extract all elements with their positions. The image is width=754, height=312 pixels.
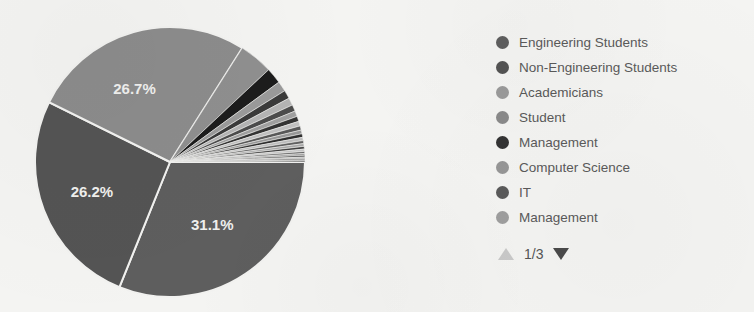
legend-item[interactable]: Computer Science — [496, 155, 746, 180]
pie-chart-svg[interactable]: 31.1%26.2%26.7% — [0, 0, 420, 312]
legend-swatch-icon — [496, 61, 509, 74]
legend-item[interactable]: IT — [496, 180, 746, 205]
legend-swatch-icon — [496, 111, 509, 124]
legend-swatch-icon — [496, 86, 509, 99]
legend-item[interactable]: Management — [496, 130, 746, 155]
legend-item[interactable]: Engineering Students — [496, 30, 746, 55]
legend-page-count: 1/3 — [524, 247, 543, 261]
pie-slice-percent-label: 31.1% — [191, 216, 234, 233]
legend-item-list[interactable]: Engineering StudentsNon-Engineering Stud… — [496, 30, 746, 230]
legend-swatch-icon — [496, 161, 509, 174]
triangle-up-icon[interactable] — [498, 248, 514, 260]
triangle-down-icon[interactable] — [553, 248, 569, 260]
pie-slice-percent-label: 26.7% — [113, 80, 156, 97]
legend-swatch-icon — [496, 186, 509, 199]
legend-item[interactable]: Student — [496, 105, 746, 130]
legend-item[interactable]: Management — [496, 205, 746, 230]
legend-item-label: Academicians — [519, 86, 603, 100]
legend-swatch-icon — [496, 36, 509, 49]
pie-chart-area: 31.1%26.2%26.7% — [0, 0, 420, 312]
legend-item-label: Engineering Students — [519, 36, 648, 50]
legend-item-label: IT — [519, 186, 531, 200]
legend-item[interactable]: Academicians — [496, 80, 746, 105]
chart-legend[interactable]: Engineering StudentsNon-Engineering Stud… — [496, 30, 746, 261]
chart-screenshot: 31.1%26.2%26.7% Engineering StudentsNon-… — [0, 0, 754, 312]
legend-item-label: Management — [519, 211, 598, 225]
legend-item-label: Student — [519, 111, 566, 125]
legend-item[interactable]: Non-Engineering Students — [496, 55, 746, 80]
legend-pagination[interactable]: 1/3 — [498, 247, 746, 261]
legend-item-label: Computer Science — [519, 161, 630, 175]
legend-swatch-icon — [496, 136, 509, 149]
pie-slices-group[interactable] — [35, 27, 305, 297]
legend-item-label: Non-Engineering Students — [519, 61, 677, 75]
pie-slice-percent-label: 26.2% — [71, 183, 114, 200]
legend-swatch-icon — [496, 211, 509, 224]
legend-item-label: Management — [519, 136, 598, 150]
